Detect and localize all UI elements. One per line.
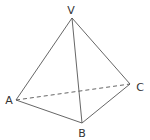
edge-VC <box>72 18 130 84</box>
vertex-label-C: C <box>136 81 144 94</box>
tetrahedron-diagram: VABC <box>0 0 150 140</box>
vertex-label-A: A <box>5 94 13 107</box>
edge-VA <box>16 18 72 100</box>
vertex-labels: VABC <box>5 4 144 140</box>
edge-VB <box>72 18 82 123</box>
vertex-label-B: B <box>78 127 86 140</box>
edge-AB <box>16 100 82 123</box>
vertex-label-V: V <box>67 4 75 17</box>
edges <box>16 18 130 123</box>
